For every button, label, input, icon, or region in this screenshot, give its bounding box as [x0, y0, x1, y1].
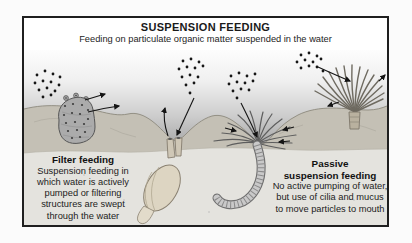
caption-line: to move particles to mouth: [271, 204, 389, 215]
caption-filter-feeding-heading: Filter feeding: [24, 154, 142, 166]
caption-line: pumped or filtering: [24, 188, 142, 199]
figure-header: SUSPENSION FEEDING Feeding on particulat…: [24, 21, 387, 45]
figure-title: SUSPENSION FEEDING: [24, 21, 387, 34]
caption-passive-heading-line: Passive: [271, 158, 389, 170]
caption-passive-heading-line: suspension feeding: [271, 170, 389, 182]
caption-line: through the water: [24, 211, 142, 222]
caption-line: Suspension feeding in: [24, 166, 142, 177]
caption-passive-suspension-feeding: Passive suspension feeding No active pum…: [271, 158, 389, 215]
figure-subtitle: Feeding on particulate organic matter su…: [24, 34, 387, 45]
caption-line: which water is actively: [24, 177, 142, 188]
caption-line: but use of cilia and mucus: [271, 192, 389, 203]
figure-frame: SUSPENSION FEEDING Feeding on particulat…: [22, 16, 389, 227]
figure-suspension-feeding: SUSPENSION FEEDING Feeding on particulat…: [0, 0, 412, 243]
caption-filter-feeding: Filter feeding Suspension feeding in whi…: [24, 154, 142, 222]
caption-line: structures are swept: [24, 199, 142, 210]
caption-line: No active pumping of water,: [271, 181, 389, 192]
